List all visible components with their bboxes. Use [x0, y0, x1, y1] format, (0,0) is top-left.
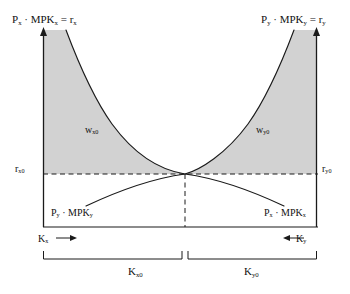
curve-px-mpk-sub: x [303, 211, 306, 218]
diagram-svg [0, 0, 350, 294]
shaded-region-left [44, 30, 185, 174]
left-axis-rate-sub: x [73, 19, 76, 26]
right-wage-region-label: wy0 [256, 124, 269, 135]
ky-sub: y [303, 237, 306, 244]
right-axis-price-sub: y [267, 19, 270, 26]
curve-px-dot: · [275, 207, 278, 218]
shaded-region-right [185, 30, 316, 174]
curve-px-price-sub: x [270, 211, 273, 218]
curve-label-py-mpky: Py · MPKy [51, 207, 93, 218]
right-axis-label: Py · MPKy = ry [261, 13, 326, 26]
left-axis-label: Px · MPKx = rx [12, 13, 77, 26]
right-axis-dot: · [273, 13, 277, 25]
kx-direction-arrowhead-icon [70, 235, 77, 241]
right-axis-mpk-sub: y [304, 19, 307, 26]
curve-py-mpk-sub: y [90, 211, 93, 218]
ky-direction-arrowhead-icon [283, 235, 290, 241]
kx0-brace-label: Kx0 [128, 265, 143, 278]
left-rate-tick-sub: x0 [18, 167, 24, 174]
ky0-base: K [244, 265, 252, 277]
left-axis-equals: = [61, 13, 67, 25]
ky-direction-label: Ky [296, 233, 306, 244]
ky0-sub: y0 [252, 271, 259, 278]
left-rate-tick-label: rx0 [15, 163, 25, 174]
figure-canvas: Px · MPKx = rx Py · MPKy = ry rx0 ry0 wx… [0, 0, 350, 294]
curve-label-px-mpkx: Px · MPKx [264, 207, 306, 218]
kx-sub: x [45, 237, 48, 244]
right-rate-tick-sub: y0 [325, 167, 331, 174]
curve-py-mpk: MPK [68, 207, 90, 218]
curve-py-dot: · [62, 207, 65, 218]
ky0-brace-label: Ky0 [244, 265, 259, 278]
left-axis-dot: · [24, 13, 28, 25]
kx0-base: K [128, 265, 136, 277]
right-axis-rate-sub: y [322, 19, 325, 26]
right-axis-equals: = [310, 13, 316, 25]
left-axis-mpk-sub: x [55, 19, 58, 26]
left-wage-sub: x0 [92, 128, 98, 135]
right-wage-sub: y0 [263, 128, 269, 135]
left-axis-mpk: MPK [31, 13, 55, 25]
kx-direction-label: Kx [38, 233, 48, 244]
right-axis-mpk: MPK [280, 13, 304, 25]
left-wage-region-label: wx0 [85, 124, 98, 135]
kx0-sub: x0 [136, 271, 143, 278]
curve-px-mpk: MPK [281, 207, 303, 218]
brace-ky0 [188, 251, 317, 259]
left-axis-price-sub: x [18, 19, 21, 26]
brace-kx0 [44, 251, 183, 259]
curve-py-price-sub: y [57, 211, 60, 218]
right-rate-tick-label: ry0 [322, 163, 332, 174]
